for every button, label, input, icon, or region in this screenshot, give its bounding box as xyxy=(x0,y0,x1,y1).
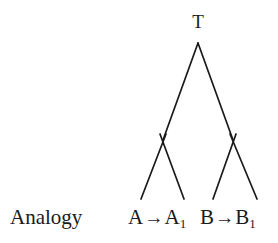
edge-root-to-right-internal xyxy=(198,43,233,140)
arrow-right-icon-right: → xyxy=(214,207,235,228)
edge-right-internal-to-leaf-3 xyxy=(213,134,236,199)
tree-edges xyxy=(141,43,257,199)
leaf-label-a-target-subscript: 1 xyxy=(180,216,187,231)
leaf-label-pair-left: A→A1 xyxy=(128,207,186,230)
edge-root-to-left-internal xyxy=(163,43,198,140)
row-caption-text: Analogy xyxy=(10,205,82,229)
leaf-label-b-target-subscript: 1 xyxy=(249,216,256,231)
root-node-label-text: T xyxy=(192,11,204,32)
leaf-label-a-target: A xyxy=(164,205,179,229)
row-caption-analogy: Analogy xyxy=(10,207,82,228)
edge-right-internal-to-leaf-4 xyxy=(230,134,257,199)
edge-left-internal-to-leaf-1 xyxy=(141,134,166,199)
edge-left-internal-to-leaf-2 xyxy=(160,134,184,199)
root-node-label: T xyxy=(0,12,278,31)
leaf-label-a-source: A xyxy=(128,205,143,229)
leaf-label-b-target: B xyxy=(235,205,249,229)
analogy-tree-figure: T Analogy A→A1 B→B1 xyxy=(0,0,278,243)
leaf-label-b-source: B xyxy=(200,205,214,229)
leaf-label-pair-right: B→B1 xyxy=(200,207,256,230)
arrow-right-icon-left: → xyxy=(143,207,164,228)
